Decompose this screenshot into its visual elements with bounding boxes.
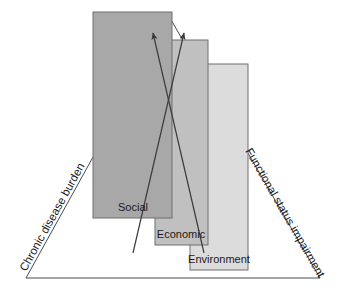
diagram-canvas: Social Economic Environment Chronic dise…: [0, 0, 339, 288]
box-label-economic: Economic: [157, 228, 206, 240]
box-social: [93, 12, 172, 218]
axis-label-chronic-disease-burden: Chronic disease burden: [17, 161, 86, 273]
axis-label-functional-status-impairment: Functional status impairment: [243, 146, 327, 280]
box-label-environment: Environment: [188, 253, 250, 265]
diagram-figure: Social Economic Environment Chronic dise…: [0, 0, 339, 288]
box-label-social: Social: [118, 201, 148, 213]
